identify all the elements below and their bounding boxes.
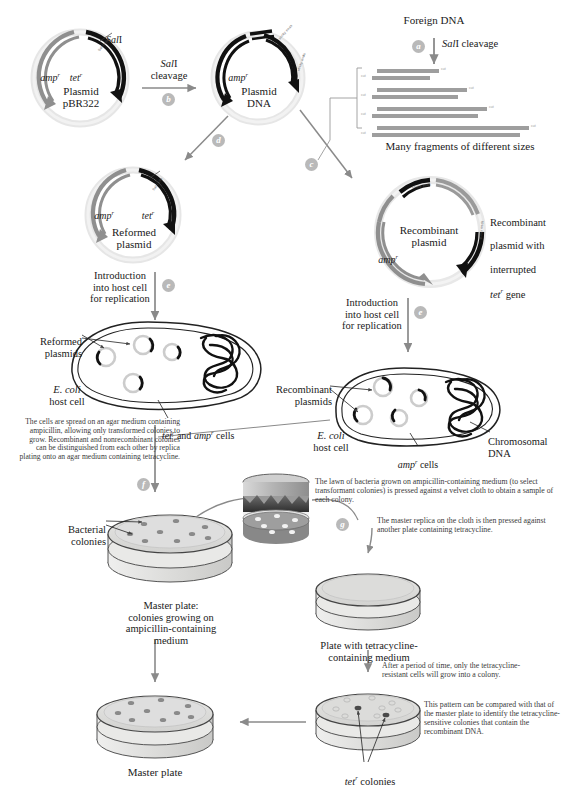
label-recombinant-plasmid-name: Recombinantplasmid <box>374 224 484 249</box>
label-bacterial-colonies: Bacterialcolonies <box>48 512 106 547</box>
master-plate-amp-graphic <box>106 515 232 582</box>
step-badge-f: f <box>137 478 150 491</box>
text-replica-transfer: The master replica on the cloth is then … <box>377 516 567 534</box>
label-recombinant-plasmids: Recombinantplasmids <box>262 372 332 407</box>
label-sali-cleavage-b: SalIcleavage <box>140 58 198 82</box>
fragment-tag-4: cut <box>531 124 536 128</box>
figure-canvas: ampr tetr SalI PlasmidpBR322 Sal I site … <box>0 0 570 799</box>
label-recombinant-sidenote: Recombinant plasmid with interrupted tet… <box>490 205 570 301</box>
master-plate-bottom-graphic <box>97 696 213 758</box>
label-amp-reformed: ampr <box>84 210 124 222</box>
label-plasmid-dna-name: PlasmidDNA <box>224 85 294 110</box>
fragment-tag-1: cut <box>441 67 446 71</box>
arrow-step-g <box>368 528 372 553</box>
fragment-tag-2: cut <box>469 86 474 90</box>
label-introduction-right: Introductioninto host cellfor replicatio… <box>338 285 406 332</box>
fragment-tag-1b: cut <box>361 74 366 78</box>
label-amp-recombinant: ampr <box>368 254 408 266</box>
text-compare-pattern: This pattern can be compared with that o… <box>424 700 564 736</box>
fragment-tag-3: cut <box>489 105 494 109</box>
fragment-tag-4b: cut <box>361 131 366 135</box>
text-spread-plating: The cells are spread on an agar medium c… <box>18 418 180 462</box>
label-tet-colonies: tetr colonies <box>320 762 420 787</box>
label-sali-site-pbr322: SalI <box>106 34 146 45</box>
label-fragments-caption: Many fragments of different sizes <box>350 140 570 152</box>
label-sali-cleavage-a: SalI cleavage <box>442 38 522 50</box>
label-reformed-plasmid-name: Reformedplasmid <box>98 226 170 251</box>
step-badge-g: g <box>336 518 349 531</box>
label-tet-reformed: tetr <box>128 210 168 222</box>
step-badge-e-right: e <box>414 306 427 319</box>
label-reformed-plasmids: Reformedplasmids <box>16 324 82 359</box>
fragment-tag-2b: cut <box>361 93 366 97</box>
label-introduction-left: Introductioninto host cellfor replicatio… <box>86 258 154 305</box>
tet-colonies-plate-graphic <box>316 694 420 762</box>
label-amp-cells: ampr cells <box>378 448 458 471</box>
step-badge-a: a <box>412 40 425 53</box>
fragment-tag-3b: cut <box>361 112 366 116</box>
velvet-cylinder-graphic <box>243 474 309 544</box>
text-velvet-cloth: The lawn of bacteria grown on ampicillin… <box>315 477 565 504</box>
caption-master-plate-amp: Master plate:colonies growing onampicill… <box>86 588 256 647</box>
label-foreign-dna: Foreign DNA <box>386 14 482 26</box>
label-ecoli-host-left: E. colihost cell <box>36 372 98 407</box>
dna-fragments-graphic <box>372 69 529 137</box>
step-badge-d: d <box>212 134 225 147</box>
label-plasmid-pbr322-name: PlasmidpBR322 <box>46 85 116 110</box>
tetracycline-plate-graphic <box>316 574 420 630</box>
label-chromosomal-dna: ChromosomalDNA <box>488 424 568 459</box>
label-ecoli-host-right: E. colihost cell <box>300 418 362 453</box>
step-badge-b: b <box>162 93 175 106</box>
ecoli-cell-left-graphic <box>72 322 261 409</box>
label-tet-pbr322: tetr <box>56 72 96 84</box>
fragment-connector <box>330 98 350 140</box>
text-period-of-time: After a period of time, only the tetracy… <box>382 661 542 679</box>
label-amp-plasmid-dna: ampr <box>218 72 258 84</box>
step-badge-e-left: e <box>162 279 175 292</box>
step-badge-c: c <box>305 158 318 171</box>
caption-master-plate-bottom: Master plate <box>105 766 205 778</box>
caption-tetracycline-plate: Plate with tetracycline-containing mediu… <box>286 628 452 663</box>
